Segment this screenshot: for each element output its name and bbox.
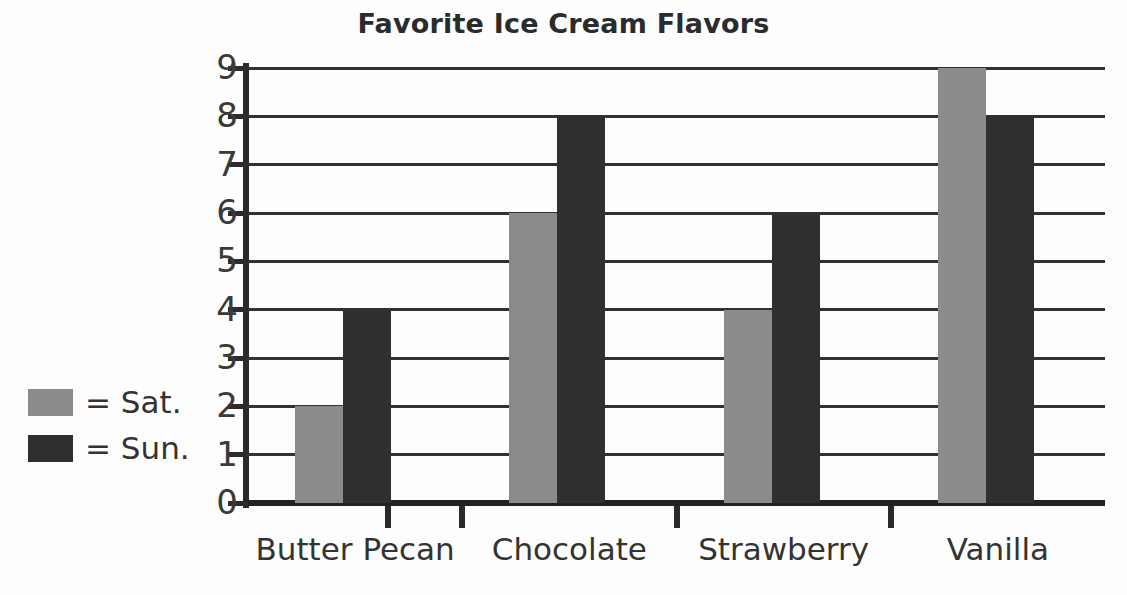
- y-tick-label-0: 0: [192, 485, 238, 519]
- y-tick-label-3: 3: [192, 340, 238, 374]
- y-tick-label-6: 6: [192, 195, 238, 229]
- bar-vanilla-sat: [938, 68, 986, 503]
- legend-label-sun: = Sun.: [85, 432, 190, 465]
- y-tick-label-9: 9: [192, 50, 238, 84]
- bar-chocolate-sat: [509, 213, 557, 503]
- x-tick-mark-1: [459, 506, 465, 528]
- bar-strawberry-sun: [772, 213, 820, 503]
- bar-vanilla-sun: [986, 116, 1034, 503]
- chart-legend: = Sat. = Sun.: [28, 380, 208, 472]
- x-label-butter-pecan: Butter Pecan: [248, 531, 462, 567]
- y-tick-label-5: 5: [192, 243, 238, 277]
- bar-chocolate-sun: [557, 116, 605, 503]
- x-tick-mark-2: [674, 506, 680, 528]
- bar-strawberry-sat: [724, 310, 772, 503]
- bars-layer: [248, 68, 1105, 503]
- y-axis-tick-labels: 0123456789: [150, 0, 238, 595]
- x-label-chocolate: Chocolate: [462, 531, 676, 567]
- legend-label-sat: = Sat.: [85, 386, 182, 419]
- legend-swatch-sat-icon: [28, 389, 73, 416]
- legend-item-sun: = Sun.: [28, 426, 208, 470]
- legend-item-sat: = Sat.: [28, 380, 208, 424]
- bar-butter-pecan-sun: [343, 310, 391, 503]
- x-tick-mark-3: [888, 506, 894, 528]
- x-tick-mark-butter-pecan: [385, 506, 391, 528]
- y-tick-label-7: 7: [192, 147, 238, 181]
- y-tick-label-8: 8: [192, 98, 238, 132]
- x-label-strawberry: Strawberry: [677, 531, 891, 567]
- x-label-vanilla: Vanilla: [891, 531, 1105, 567]
- legend-swatch-sun-icon: [28, 435, 73, 462]
- y-tick-label-4: 4: [192, 292, 238, 326]
- bar-butter-pecan-sat: [295, 406, 343, 503]
